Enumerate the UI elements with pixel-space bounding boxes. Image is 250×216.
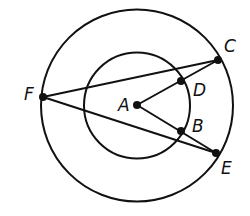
point-e	[212, 149, 220, 157]
point-b	[177, 127, 185, 135]
point-c	[214, 56, 222, 64]
label-b: B	[192, 116, 204, 136]
label-e: E	[221, 158, 232, 178]
label-c: C	[224, 36, 236, 56]
point-d	[177, 77, 185, 85]
label-a: A	[117, 95, 130, 115]
label-f: F	[24, 84, 34, 104]
point-f	[39, 93, 47, 101]
point-a	[133, 101, 141, 109]
label-d: D	[193, 80, 206, 100]
points-group	[39, 56, 222, 157]
segments-group	[43, 60, 218, 153]
segment-fc	[43, 60, 218, 97]
geometry-diagram: ABCDEF	[0, 0, 250, 216]
segment-ae	[137, 105, 216, 153]
